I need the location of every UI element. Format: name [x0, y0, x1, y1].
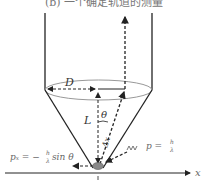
- cone-right: [103, 90, 152, 168]
- photon-wave-icon: [127, 146, 137, 150]
- label-px: pₓ = −: [10, 152, 40, 162]
- label-px-num: h: [46, 149, 50, 156]
- label-momentum-num: h: [170, 138, 174, 145]
- label-px-den: λ: [45, 157, 50, 164]
- label-x-axis: x: [195, 167, 201, 178]
- label-momentum: p =: [146, 141, 162, 151]
- angle-arc: [98, 121, 108, 122]
- label-diameter: D: [64, 76, 74, 89]
- label-length: L: [83, 114, 91, 127]
- label-momentum-den: λ: [169, 146, 174, 153]
- microscope-diagram: D L θ Δx p = h λ pₓ = − h λ sin θ x: [0, 0, 208, 189]
- label-uncertainty: Δx: [100, 136, 112, 150]
- label-px-tail: sin θ: [52, 152, 74, 162]
- label-angle: θ: [101, 109, 107, 120]
- particle: [93, 163, 104, 170]
